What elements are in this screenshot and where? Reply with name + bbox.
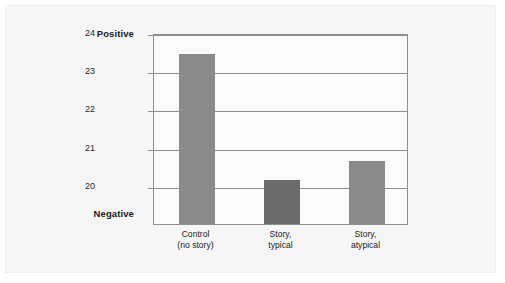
y-tick-label-24: 24 [75, 28, 95, 38]
y-tick-mark-20 [148, 188, 153, 189]
y-axis-top-label: Positive [97, 28, 134, 39]
bar [349, 161, 385, 224]
x-axis-category-label: Story,atypical [316, 229, 416, 251]
y-tick-mark-21 [148, 150, 153, 151]
y-tick-mark-22 [148, 111, 153, 112]
plot-area [153, 34, 408, 225]
y-tick-label-22: 22 [75, 104, 95, 114]
y-tick-mark-24 [148, 35, 153, 36]
category-label-line: Story, [316, 229, 416, 240]
y-tick-label-20: 20 [75, 181, 95, 191]
y-tick-label-21: 21 [75, 143, 95, 153]
y-tick-label-23: 23 [75, 66, 95, 76]
y-tick-mark-23 [148, 73, 153, 74]
y-axis-bottom-label: Negative [94, 208, 134, 219]
bar [179, 54, 215, 224]
bar [264, 180, 300, 224]
gridline-24 [154, 35, 407, 36]
category-label-line: atypical [316, 240, 416, 251]
figure-container: Positive Negative 2423222120 Control(no … [0, 0, 505, 283]
